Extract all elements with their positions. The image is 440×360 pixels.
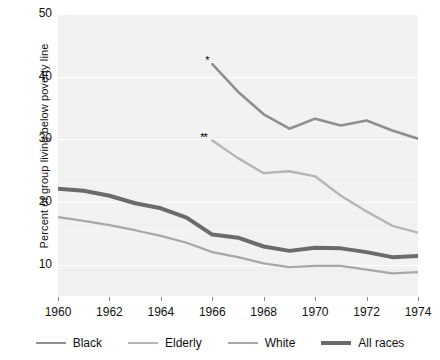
legend-swatch-icon — [228, 342, 258, 344]
x-tick-label: 1960 — [38, 305, 78, 319]
legend-label: White — [265, 336, 296, 350]
legend-label: All races — [358, 336, 404, 350]
series-line-all-races — [58, 189, 418, 257]
legend-item-elderly[interactable]: Elderly — [128, 336, 202, 350]
footnote-marker-single: * — [205, 55, 208, 66]
footnote-marker-double: ** — [200, 132, 207, 143]
legend-label: Black — [73, 336, 102, 350]
legend-swatch-icon — [36, 342, 66, 345]
x-tick-label: 1966 — [192, 305, 232, 319]
x-tick-mark — [58, 297, 59, 301]
x-tick-label: 1964 — [141, 305, 181, 319]
y-tick-label: 10 — [24, 257, 52, 271]
legend-item-all-races[interactable]: All races — [321, 336, 404, 350]
x-tick-label: 1970 — [295, 305, 335, 319]
x-tick-label: 1968 — [244, 305, 284, 319]
series-line-white — [58, 217, 418, 273]
x-tick-mark — [161, 297, 162, 301]
x-tick-label: 1972 — [347, 305, 387, 319]
x-tick-mark — [264, 297, 265, 301]
y-axis-title: Percent of group living below poverty li… — [38, 6, 50, 286]
poverty-line-chart-figure: Percent of group living below poverty li… — [0, 0, 440, 360]
chart-legend: BlackElderlyWhiteAll races — [0, 330, 440, 356]
y-tick-label: 30 — [24, 131, 52, 145]
legend-item-white[interactable]: White — [228, 336, 296, 350]
legend-swatch-icon — [128, 342, 158, 344]
y-tick-label: 50 — [24, 6, 52, 20]
x-tick-mark — [315, 297, 316, 301]
series-line-black — [212, 64, 418, 139]
x-tick-mark — [212, 297, 213, 301]
x-tick-label: 1974 — [398, 305, 438, 319]
x-tick-mark — [367, 297, 368, 301]
series-layer — [58, 14, 418, 296]
legend-label: Elderly — [165, 336, 202, 350]
x-tick-mark — [418, 297, 419, 301]
legend-item-black[interactable]: Black — [36, 336, 102, 350]
x-tick-label: 1962 — [89, 305, 129, 319]
x-tick-mark — [109, 297, 110, 301]
legend-swatch-icon — [321, 341, 351, 345]
y-tick-label: 20 — [24, 194, 52, 208]
y-tick-label: 40 — [24, 69, 52, 83]
series-line-elderly — [212, 141, 418, 233]
plot-area — [58, 14, 418, 296]
